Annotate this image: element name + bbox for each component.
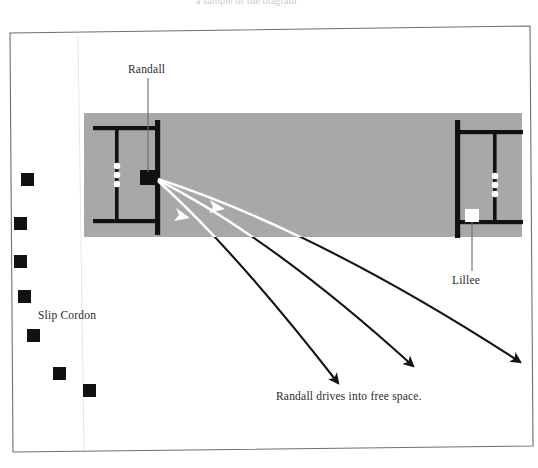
fielder-marker <box>53 367 66 380</box>
left-bowling-crease-top <box>93 126 159 130</box>
fielder-marker <box>14 255 27 268</box>
label-randall: Randall <box>128 63 165 75</box>
fielder-marker <box>21 173 34 186</box>
stump-dot <box>114 163 121 170</box>
caption-randall-drives: Randall drives into free space. <box>276 390 422 402</box>
label-slip-cordon: Slip Cordon <box>38 309 96 321</box>
fielder-marker <box>83 384 96 397</box>
top-partial-text: a sample of the diagram <box>196 0 297 6</box>
right-stumps <box>492 173 499 198</box>
left-bowling-crease-bottom <box>93 219 159 223</box>
stump-dot <box>492 191 499 198</box>
right-bowling-crease-top <box>457 130 523 134</box>
diagram-canvas <box>0 0 538 468</box>
fielder-marker <box>27 329 40 342</box>
stump-dot <box>492 173 499 180</box>
cricket-field-diagram: a sample of the diagram Randall Lillee S… <box>0 0 538 468</box>
batsman-randall-marker <box>140 170 156 185</box>
stump-dot <box>114 172 121 179</box>
batsman-lillee-marker <box>465 209 479 222</box>
fielder-marker <box>14 217 27 230</box>
fielder-marker <box>18 290 31 303</box>
label-lillee: Lillee <box>452 274 480 286</box>
stump-dot <box>114 181 121 188</box>
left-stumps <box>114 163 121 188</box>
stump-dot <box>492 182 499 189</box>
